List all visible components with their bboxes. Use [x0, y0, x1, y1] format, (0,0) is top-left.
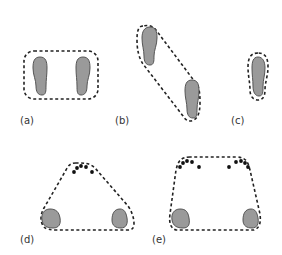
toe-dots-d	[72, 164, 94, 174]
panel-b	[137, 25, 200, 120]
base-of-support-diagram	[0, 0, 282, 255]
heel-right-e	[243, 209, 258, 228]
panel-c	[248, 53, 268, 100]
heel-left-d	[42, 209, 60, 228]
heel-right-d	[112, 209, 127, 228]
foot-c	[252, 57, 265, 96]
toe-dots-e-right	[227, 159, 250, 169]
foot-right-a	[76, 57, 90, 95]
heel-left-e	[172, 209, 190, 228]
foot-left-a	[33, 57, 47, 95]
panel-a	[24, 51, 98, 99]
panel-label-a: (a)	[20, 115, 34, 126]
panel-label-d: (d)	[20, 234, 34, 245]
panel-label-e: (e)	[152, 234, 166, 245]
panel-label-c: (c)	[231, 115, 244, 126]
panel-e	[170, 157, 261, 230]
foot-lower-b	[185, 80, 199, 118]
foot-upper-b	[142, 27, 157, 65]
panel-label-b: (b)	[115, 115, 129, 126]
toe-dots-e-left	[178, 159, 201, 169]
panel-d	[41, 163, 134, 230]
